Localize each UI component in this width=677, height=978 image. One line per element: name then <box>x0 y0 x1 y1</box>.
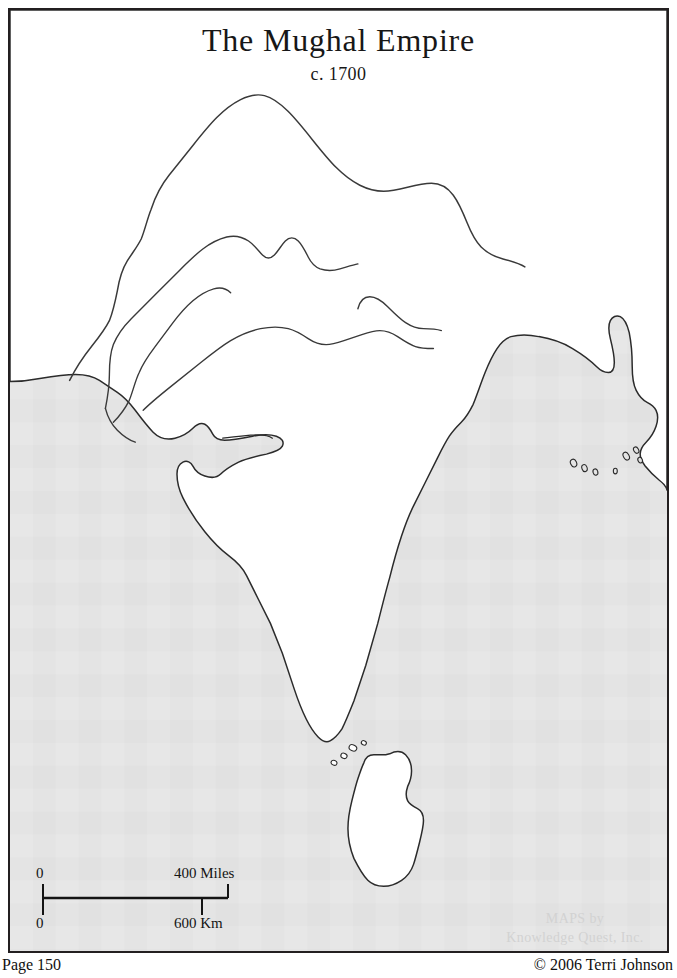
scale-miles-max-label: 400 Miles <box>174 865 234 882</box>
scale-miles-zero-label: 0 <box>36 865 44 882</box>
scale-bar-graphic <box>26 865 286 945</box>
copyright-notice: © 2006 Terri Johnson <box>534 956 673 974</box>
page-number: Page 150 <box>2 956 61 974</box>
map-frame: The Mughal Empire c. 1700 0 400 Miles 0 … <box>8 8 669 953</box>
map-page: The Mughal Empire c. 1700 0 400 Miles 0 … <box>0 0 677 978</box>
scale-km-zero-label: 0 <box>36 915 44 932</box>
scale-km-max-label: 600 Km <box>174 915 223 932</box>
page-footer: Page 150 © 2006 Terri Johnson <box>0 956 677 978</box>
scale-bar: 0 400 Miles 0 600 Km <box>26 865 286 945</box>
map-graphic <box>10 10 667 951</box>
